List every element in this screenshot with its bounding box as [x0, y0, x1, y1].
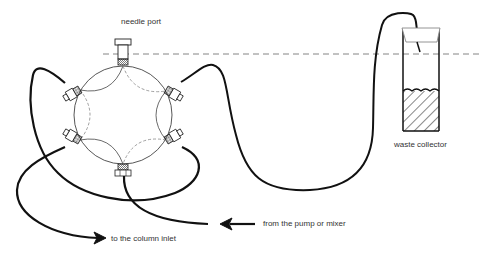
bottom-port-fitting — [115, 164, 131, 176]
lower-right-port-fitting — [164, 127, 185, 145]
waste-collector — [402, 28, 440, 131]
lower-left-port-fitting — [62, 127, 83, 145]
needle-port-fitting — [115, 39, 131, 65]
column-inlet-tube — [17, 147, 98, 238]
waste-collector-label: waste collector — [394, 140, 447, 149]
valve-diagram — [0, 0, 496, 263]
upper-right-port-fitting — [164, 85, 185, 103]
waste-tube — [181, 13, 417, 190]
to-column-label: to the column inlet — [111, 234, 176, 243]
from-pump-label: from the pump or mixer — [263, 219, 346, 228]
rotary-valve — [74, 66, 172, 164]
needle-port-label: needle port — [121, 17, 161, 26]
upper-left-port-fitting — [62, 85, 83, 103]
